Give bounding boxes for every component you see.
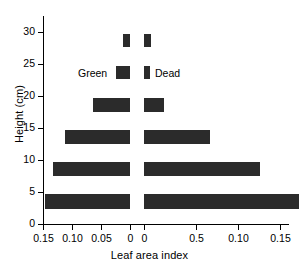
x-tick-left-0: 0	[130, 225, 131, 230]
y-tick-label-30: 30	[23, 25, 35, 37]
x-tick-label-left-010: 0.10	[62, 232, 82, 244]
x-tick-right-005: 0.5	[196, 225, 197, 230]
bar-green-27	[123, 34, 130, 47]
x-tick-left-005: 0.05	[101, 225, 102, 230]
legend-swatch-dead	[144, 66, 150, 79]
x-tick-label-left-0: 0	[128, 232, 134, 244]
bar-green-7	[53, 162, 130, 176]
bar-dead-2	[144, 194, 299, 209]
bar-green-2	[45, 194, 130, 209]
y-tick-15: 15	[38, 128, 43, 129]
y-tick-25: 25	[38, 64, 43, 65]
x-tick-label-right-005: 0.5	[189, 232, 204, 244]
x-tick-label-left-005: 0.05	[91, 232, 111, 244]
bar-dead-17	[144, 98, 164, 112]
x-tick-right-010: 0.10	[238, 225, 239, 230]
y-tick-10: 10	[38, 160, 43, 161]
x-axis-line	[43, 224, 289, 225]
legend-label-green: Green	[78, 67, 107, 79]
y-axis-line	[43, 16, 44, 225]
y-tick-label-10: 10	[23, 153, 35, 165]
x-tick-label-right-0: 0	[142, 232, 148, 244]
x-tick-right-0: 0	[144, 225, 145, 230]
x-tick-left-010: 0.10	[72, 225, 73, 230]
bar-dead-12	[144, 130, 210, 144]
y-tick-30: 30	[38, 32, 43, 33]
legend-label-dead: Dead	[155, 67, 180, 79]
x-tick-label-right-010: 0.10	[228, 232, 248, 244]
y-tick-20: 20	[38, 96, 43, 97]
x-tick-right-015: 0.15	[280, 225, 281, 230]
plot-area: 0 5 10 15 20 25 30 0.15 0.10 0.05	[43, 16, 289, 225]
bar-green-17	[93, 98, 130, 112]
y-tick-label-15: 15	[23, 121, 35, 133]
x-tick-label-right-015: 0.15	[270, 232, 290, 244]
y-tick-label-5: 5	[29, 185, 35, 197]
y-tick-label-0: 0	[29, 217, 35, 229]
bar-dead-7	[144, 162, 260, 176]
bar-green-12	[65, 130, 130, 144]
x-tick-label-left-015: 0.15	[33, 232, 53, 244]
leaf-area-index-chart: Height (cm) 0 5 10 15 20 25 30 0.15	[0, 0, 299, 274]
bar-dead-27	[144, 34, 151, 47]
x-axis-title: Leaf area index	[0, 249, 299, 261]
y-tick-label-25: 25	[23, 57, 35, 69]
x-tick-left-015: 0.15	[43, 225, 44, 230]
y-tick-5: 5	[38, 192, 43, 193]
y-tick-label-20: 20	[23, 89, 35, 101]
legend-swatch-green	[116, 66, 130, 79]
